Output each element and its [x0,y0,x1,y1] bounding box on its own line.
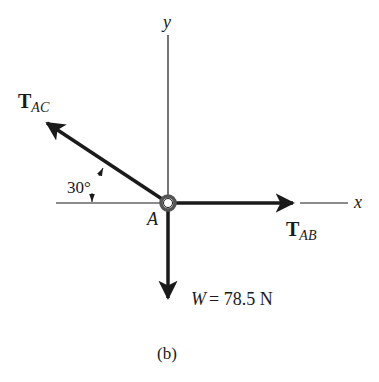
force-value: = 78.5 N [209,289,273,309]
point-label-a: A [146,209,159,229]
force-symbol: T [18,90,32,112]
force-label-w: W= 78.5 N [191,289,273,309]
point-a-ring-inner [164,199,173,208]
angle-tick-upper [99,168,103,176]
free-body-diagram: y x TAB TAC 30° W= 78.5 N A (b) [0,0,379,382]
force-label-t-ab: TAB [286,218,317,243]
figure-caption: (b) [157,344,177,363]
force-arrow-t-ac [47,123,162,199]
force-label-t-ac: TAC [18,90,50,115]
angle-label: 30° [67,178,91,197]
y-axis-label: y [161,12,171,32]
force-symbol: W [191,289,208,309]
force-subscript: AB [298,228,317,243]
x-axis-label: x [353,192,362,212]
force-symbol: T [286,218,300,240]
force-subscript: AC [30,100,50,115]
